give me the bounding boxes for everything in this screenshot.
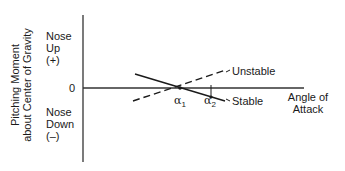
nose-down-line3: (–) [46, 130, 74, 142]
x-axis-title-line2: Attack [282, 103, 334, 115]
nose-up-line2: Up [46, 42, 72, 54]
x-axis-title: Angle of Attack [282, 91, 334, 115]
y-axis-title-line1: Pitching Moment [9, 28, 21, 142]
y-axis-title-line2: about Center of Gravity [21, 28, 33, 142]
nose-up-line3: (+) [46, 54, 72, 66]
nose-down-line1: Nose [46, 106, 74, 118]
nose-down-label: Nose Down (–) [46, 106, 74, 142]
alpha2-label: α2 [204, 95, 216, 111]
y-axis-title: Pitching Moment about Center of Gravity [9, 28, 33, 142]
alpha1-label: α1 [174, 95, 186, 111]
alpha2-subscript: 2 [211, 100, 215, 109]
nose-down-line2: Down [46, 118, 74, 130]
stable-label: Stable [232, 95, 263, 107]
unstable-label: Unstable [232, 65, 275, 77]
alpha1-point [178, 86, 182, 90]
x-axis-title-line1: Angle of [282, 91, 334, 103]
zero-label: 0 [69, 82, 75, 94]
unstable-leader [226, 70, 230, 72]
diagram-canvas [0, 0, 345, 171]
stable-leader [226, 99, 230, 101]
nose-up-label: Nose Up (+) [46, 30, 72, 66]
alpha1-subscript: 1 [181, 100, 185, 109]
nose-up-line1: Nose [46, 30, 72, 42]
